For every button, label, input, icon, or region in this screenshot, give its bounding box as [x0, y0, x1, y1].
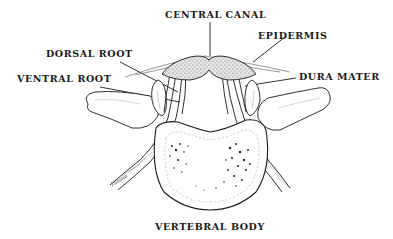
dura-mater-label: DURA MATER: [299, 72, 380, 82]
vertebral-body-label: VERTEBRAL BODY: [155, 222, 265, 232]
diagram-canvas: J.Stone CENTRAL CANAL EPIDERMIS DORSAL R…: [0, 0, 393, 239]
vertebral-body-outline: [154, 120, 267, 210]
dorsal-root-label: DORSAL ROOT: [46, 49, 133, 59]
right-transverse-process: [258, 88, 331, 131]
vertebra-illustration: J.Stone: [0, 0, 393, 239]
central-canal-label: CENTRAL CANAL: [165, 10, 266, 20]
ventral-root-label: VENTRAL ROOT: [17, 74, 111, 84]
artist-signature: J.Stone: [109, 173, 129, 188]
left-transverse-process: [86, 92, 158, 129]
epidermis-label: EPIDERMIS: [258, 31, 327, 41]
spinal-cord: [162, 56, 256, 80]
